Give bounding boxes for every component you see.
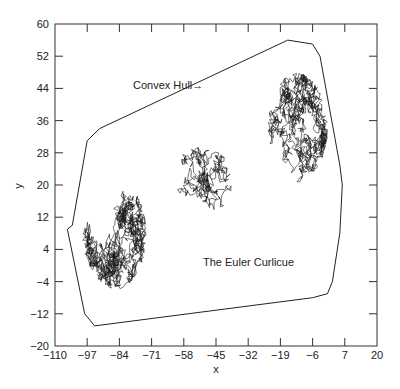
y-tick-label: 52 [37, 50, 49, 62]
y-tick-label: −12 [30, 308, 49, 320]
x-axis-label: x [213, 363, 219, 375]
x-tick-label: −6 [306, 349, 319, 361]
curlicue-annotation: The Euler Curlicue [203, 256, 294, 268]
x-tick-label: 20 [371, 349, 383, 361]
x-tick-label: −45 [207, 349, 226, 361]
euler-curlicue-chart: −110−97−84−71−58−45−32−19−6720 −20−12−44… [0, 0, 400, 389]
convex-hull-annotation: Convex Hull→ [133, 79, 203, 91]
y-tick-label: 12 [37, 211, 49, 223]
x-tick-label: −19 [271, 349, 290, 361]
x-tick-label: −32 [239, 349, 258, 361]
plot-frame [55, 24, 377, 346]
y-tick-label: 36 [37, 115, 49, 127]
x-tick-label: −84 [110, 349, 129, 361]
y-tick-label: 4 [43, 243, 49, 255]
x-tick-label: −97 [78, 349, 97, 361]
y-tick-label: 28 [37, 147, 49, 159]
y-axis-label: y [12, 183, 24, 189]
x-tick-label: −71 [142, 349, 161, 361]
y-tick-label: 20 [37, 179, 49, 191]
x-tick-label: 7 [342, 349, 348, 361]
y-tick-label: −20 [30, 340, 49, 352]
y-tick-label: 44 [37, 82, 49, 94]
y-tick-label: 60 [37, 18, 49, 30]
y-tick-label: −4 [36, 276, 49, 288]
x-tick-label: −58 [174, 349, 193, 361]
